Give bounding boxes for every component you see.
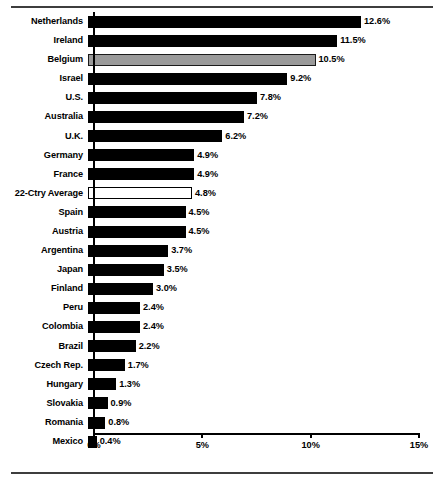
bar-track: 3.0%: [88, 279, 439, 298]
bar-row: Australia7.2%: [0, 107, 439, 126]
bar-row: Colombia2.4%: [0, 318, 439, 337]
bar: [88, 149, 194, 161]
bar-value-label: 3.5%: [167, 265, 188, 274]
bar: [88, 245, 168, 257]
bar-value-label: 0.4%: [100, 437, 121, 446]
bar-chart-plot: Netherlands12.6%Ireland11.5%Belgium10.5%…: [0, 12, 439, 464]
bar-value-label: 0.9%: [111, 399, 132, 408]
bar-track: 2.4%: [88, 318, 439, 337]
category-label: Australia: [0, 112, 88, 121]
bar-value-label: 1.3%: [119, 380, 140, 389]
bar-track: 4.5%: [88, 222, 439, 241]
bar-value-label: 4.5%: [189, 208, 210, 217]
category-label: 22-Ctry Average: [0, 189, 88, 198]
category-label: Netherlands: [0, 17, 88, 26]
bar-row: France4.9%: [0, 165, 439, 184]
figure: Netherlands12.6%Ireland11.5%Belgium10.5%…: [0, 0, 439, 490]
category-label: Brazil: [0, 342, 88, 351]
category-label: Slovakia: [0, 399, 88, 408]
category-label: Czech Rep.: [0, 361, 88, 370]
category-label: Argentina: [0, 246, 88, 255]
x-axis-tick: [418, 433, 420, 438]
x-axis-tick: [310, 433, 312, 438]
bar-track: 0.9%: [88, 394, 439, 413]
bar-track: 2.2%: [88, 337, 439, 356]
bar: [88, 111, 244, 123]
bar: [88, 397, 108, 409]
x-axis-tick: [201, 433, 203, 438]
bar-value-label: 3.0%: [156, 284, 177, 293]
x-axis-tick-label: 5%: [196, 440, 209, 450]
x-axis-tick-label: 10%: [301, 440, 319, 450]
bar-row: Israel9.2%: [0, 69, 439, 88]
category-label: Mexico: [0, 437, 88, 446]
category-label: Colombia: [0, 322, 88, 331]
bar-row: Romania0.8%: [0, 413, 439, 432]
bar: [88, 73, 287, 85]
bar-track: 9.2%: [88, 69, 439, 88]
bar-value-label: 1.7%: [128, 361, 149, 370]
bar: [88, 302, 140, 314]
x-axis-tick: [93, 433, 95, 438]
bar-row: Argentina3.7%: [0, 241, 439, 260]
bar: [88, 35, 337, 47]
category-label: U.K.: [0, 132, 88, 141]
bar-track: 0.8%: [88, 413, 439, 432]
bar-row: Netherlands12.6%: [0, 12, 439, 31]
category-label: Japan: [0, 265, 88, 274]
bar-value-label: 7.2%: [247, 112, 268, 121]
bar: [88, 187, 192, 199]
bar-track: 4.9%: [88, 146, 439, 165]
bar-row: Austria4.5%: [0, 222, 439, 241]
category-label: Hungary: [0, 380, 88, 389]
bar-row: Czech Rep.1.7%: [0, 356, 439, 375]
bottom-divider-rule: [11, 472, 433, 474]
top-divider-rule: [11, 6, 433, 8]
bar-rows: Netherlands12.6%Ireland11.5%Belgium10.5%…: [0, 12, 439, 451]
bar-value-label: 11.5%: [340, 36, 366, 45]
category-label: Romania: [0, 418, 88, 427]
bar-value-label: 2.4%: [143, 303, 164, 312]
bar: [88, 340, 136, 352]
bar: [88, 130, 222, 142]
bar-value-label: 0.8%: [108, 418, 129, 427]
bar-value-label: 2.2%: [139, 342, 160, 351]
bar-value-label: 4.5%: [189, 227, 210, 236]
bar-track: 11.5%: [88, 31, 439, 50]
bar: [88, 321, 140, 333]
category-label: Belgium: [0, 55, 88, 64]
bar-track: 12.6%: [88, 12, 439, 31]
bar: [88, 206, 186, 218]
bar: [88, 417, 105, 429]
bar-track: 3.5%: [88, 260, 439, 279]
bar-value-label: 2.4%: [143, 322, 164, 331]
bar-row: Spain4.5%: [0, 203, 439, 222]
bar-value-label: 12.6%: [364, 17, 390, 26]
bar-row: Belgium10.5%: [0, 50, 439, 69]
bar-value-label: 10.5%: [319, 55, 345, 64]
y-axis-line: [93, 12, 95, 433]
bar-track: 3.7%: [88, 241, 439, 260]
bar-row: 22-Ctry Average4.8%: [0, 184, 439, 203]
bar: [88, 264, 164, 276]
category-label: Austria: [0, 227, 88, 236]
category-label: France: [0, 170, 88, 179]
bar-track: 6.2%: [88, 127, 439, 146]
x-axis-tick-label: 0%: [87, 440, 100, 450]
bar-track: 10.5%: [88, 50, 439, 69]
bar: [88, 168, 194, 180]
bar-row: Brazil2.2%: [0, 337, 439, 356]
bar-row: Ireland11.5%: [0, 31, 439, 50]
bar: [88, 54, 316, 66]
bar: [88, 226, 186, 238]
bar-value-label: 7.8%: [260, 93, 281, 102]
bar-track: 7.8%: [88, 88, 439, 107]
bar-track: 7.2%: [88, 107, 439, 126]
bar-track: 1.3%: [88, 375, 439, 394]
bar-value-label: 4.9%: [197, 170, 218, 179]
category-label: Peru: [0, 303, 88, 312]
bar-row: Japan3.5%: [0, 260, 439, 279]
bar-row: U.S.7.8%: [0, 88, 439, 107]
bar-row: Finland3.0%: [0, 279, 439, 298]
bar: [88, 16, 361, 28]
